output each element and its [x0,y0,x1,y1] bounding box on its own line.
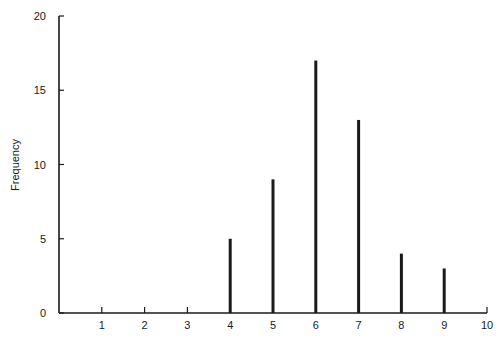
x-tick-label: 2 [142,319,148,331]
frequency-spike-chart: 05101520 12345678910 Frequency [0,0,502,341]
y-tick-label: 15 [34,84,46,96]
x-tick-label: 1 [99,319,105,331]
x-tick-label: 10 [481,319,493,331]
y-tick-label: 5 [40,233,46,245]
x-axis: 12345678910 [59,307,493,331]
x-tick-label: 6 [313,319,319,331]
y-tick-label: 0 [40,307,46,319]
x-tick-label: 9 [441,319,447,331]
y-axis-label: Frequency [9,139,21,191]
x-tick-label: 3 [184,319,190,331]
bars [230,61,444,313]
x-tick-label: 7 [356,319,362,331]
x-tick-label: 8 [398,319,404,331]
y-axis: 05101520 [34,10,64,319]
x-tick-label: 5 [270,319,276,331]
y-tick-label: 10 [34,159,46,171]
y-tick-label: 20 [34,10,46,22]
x-tick-label: 4 [227,319,233,331]
